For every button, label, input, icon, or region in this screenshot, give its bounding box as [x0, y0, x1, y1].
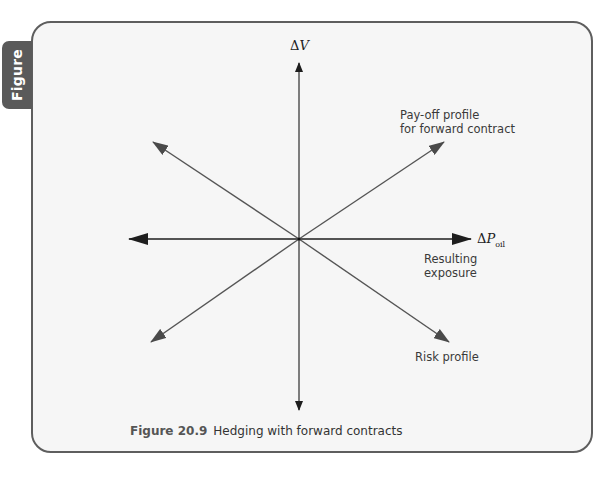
risk-line-up — [153, 142, 299, 239]
payoff-profile-label: Pay-off profile for forward contract — [400, 108, 515, 136]
payoff-line-up — [299, 142, 444, 239]
caption-text: Hedging with forward contracts — [213, 424, 402, 438]
x-axis-label: ΔPoil — [477, 231, 505, 249]
resulting-exposure-label: Resulting exposure — [424, 252, 477, 280]
y-axis-label: ΔV — [290, 38, 309, 53]
risk-profile-label: Risk profile — [415, 350, 479, 364]
figure-caption: Figure 20.9Hedging with forward contract… — [130, 424, 403, 438]
caption-number: Figure 20.9 — [130, 424, 207, 438]
hedging-diagram — [0, 0, 616, 491]
payoff-line-down — [151, 239, 299, 342]
